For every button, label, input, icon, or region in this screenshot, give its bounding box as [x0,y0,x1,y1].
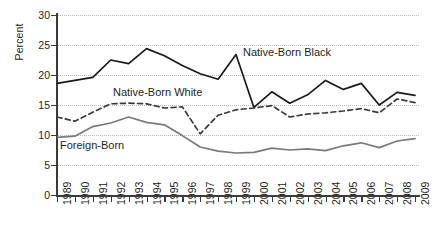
x-tick-mark-1993 [129,196,130,202]
series-label-foreign-born: Foreign-Born [60,139,124,151]
x-tick-mark-1990 [75,196,76,202]
y-axis-title: Percent [13,0,29,142]
x-tick-mark-1992 [111,196,112,202]
x-tick-mark-2006 [361,196,362,202]
x-tick-mark-2001 [272,196,273,202]
series-line-native-born-black [57,49,415,108]
x-tick-label-2009: 2009 [420,182,431,205]
x-tick-mark-1996 [182,196,183,202]
x-tick-mark-2008 [397,196,398,202]
y-tick-label-30: 30 [28,10,50,20]
y-tick-label-15: 15 [28,100,50,110]
x-tick-mark-2004 [326,196,327,202]
series-label-native-born-white: Native-Born White [113,86,202,98]
plot-area [57,15,419,195]
x-tick-mark-2000 [254,196,255,202]
x-tick-mark-1998 [218,196,219,202]
y-tick-label-20: 20 [28,70,50,80]
x-axis-line [56,195,420,197]
x-tick-mark-1991 [93,196,94,202]
x-tick-mark-1997 [200,196,201,202]
y-tick-label-5: 5 [28,160,50,170]
x-tick-mark-2003 [308,196,309,202]
x-tick-mark-2009 [415,196,416,202]
series-label-native-born-black: Native-Born Black [243,46,331,58]
x-tick-mark-2005 [343,196,344,202]
x-tick-mark-1994 [147,196,148,202]
y-tick-label-25: 25 [28,40,50,50]
line-chart: Percent 051015202530 1989199019911992199… [0,0,445,240]
x-tick-mark-1995 [164,196,165,202]
x-tick-mark-1999 [236,196,237,202]
y-tick-label-0: 0 [28,190,50,200]
y-axis-tick-labels: 051015202530 [28,0,50,240]
x-tick-mark-2002 [290,196,291,202]
series-line-native-born-white [57,99,415,134]
x-tick-mark-2007 [379,196,380,202]
y-tick-label-10: 10 [28,130,50,140]
